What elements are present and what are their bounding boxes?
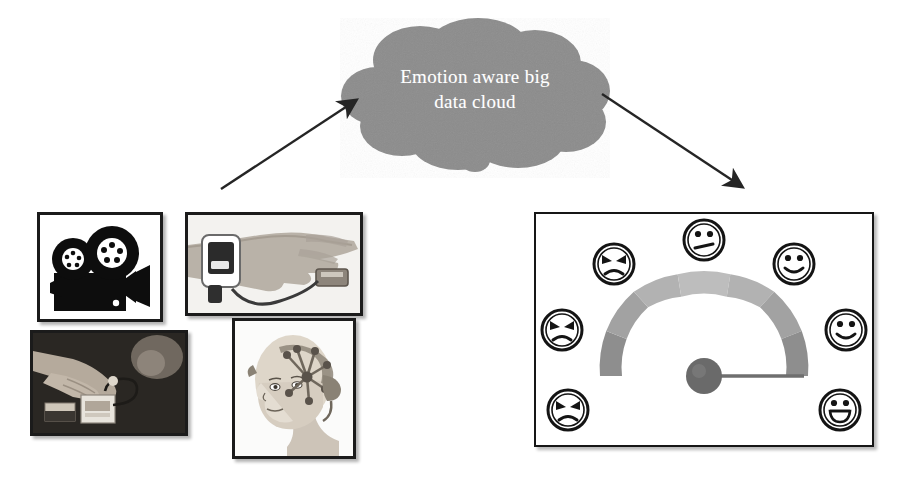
eeg-headset-icon: [235, 321, 353, 456]
cloud-label-line2: data cloud: [330, 89, 620, 114]
emotion-gauge: [536, 214, 872, 445]
emotion-gauge-panel: [534, 212, 874, 447]
cloud-label: Emotion aware big data cloud: [330, 64, 620, 114]
face-happy-medium: [826, 310, 866, 350]
panel-video-camera: [37, 212, 163, 322]
panel-handheld-sensor: [30, 330, 188, 436]
handheld-sensor-device-icon: [33, 333, 185, 433]
film-camera-icon: [40, 215, 160, 319]
face-angry-mild: [594, 244, 634, 284]
diagram-canvas: Emotion aware big data cloud: [0, 0, 904, 481]
cloud-label-line1: Emotion aware big: [330, 64, 620, 89]
face-neutral: [684, 220, 724, 260]
emotion-aware-big-data-cloud: Emotion aware big data cloud: [330, 18, 620, 183]
face-angry-medium: [542, 310, 582, 350]
face-angry-strong: [548, 390, 588, 430]
face-happy-strong: [820, 390, 860, 430]
wrist-wearable-sensor-icon: [188, 215, 360, 313]
panel-eeg-headset: [232, 318, 356, 459]
face-happy-mild: [774, 244, 814, 284]
arrow-sensors-to-cloud: [205, 90, 370, 195]
arrow-cloud-to-gauge: [600, 88, 760, 198]
panel-wrist-biosensor: [185, 212, 363, 316]
